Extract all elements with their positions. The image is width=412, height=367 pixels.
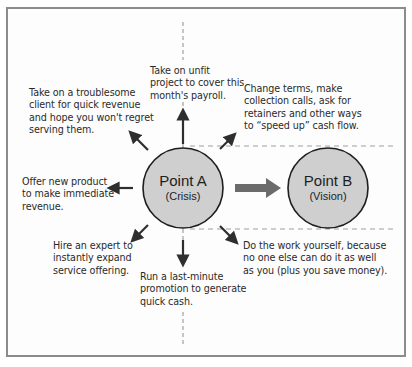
option-top-left: Take on a troublesome client for quick r… [29,87,154,137]
option-left-line: revenue. [22,201,114,213]
option-top-left-line: serving them. [29,124,154,136]
option-bottom-right-line: no one else can do it as well [243,252,387,264]
option-top-left-line: Take on a troublesome [29,87,154,99]
option-top-right: Change terms, make collection calls, ask… [244,83,362,133]
main-arrow-icon [235,178,281,198]
option-bottom-left: Hire an expert to instantly expand servi… [53,240,133,277]
point-a-subtitle: (Crisis) [143,189,223,203]
option-top: Take on unfit project to cover this mont… [150,65,244,102]
option-left-line: to make immediate [22,188,114,200]
option-top-line: Take on unfit [150,65,244,77]
option-top-line: project to cover this [150,77,244,89]
option-bottom-left-line: Hire an expert to [53,240,133,252]
point-b-label: Point B (Vision) [288,172,368,203]
option-bottom-line: promotion to generate [140,283,246,295]
option-top-right-line: Change terms, make [244,83,362,95]
option-bottom-line: quick cash. [140,296,246,308]
option-left: Offer new product to make immediate reve… [22,176,114,213]
arrow-down-right-icon [220,226,234,240]
arrow-down-left-icon [135,225,148,238]
option-top-left-line: and hope you won't regret [29,112,154,124]
arrow-up-left-icon [133,135,148,150]
option-bottom-left-line: service offering. [53,265,133,277]
option-top-left-line: client for quick revenue [29,99,154,111]
option-bottom-right-line: Do the work yourself, because [243,240,387,252]
option-top-right-line: collection calls, ask for [244,95,362,107]
option-bottom-right-line: as you (plus you save money). [243,265,387,277]
option-top-right-line: retainers and other ways [244,108,362,120]
point-b-subtitle: (Vision) [288,189,368,203]
option-bottom-right: Do the work yourself, because no one els… [243,240,387,277]
option-bottom-line: Run a last-minute [140,271,246,283]
option-left-line: Offer new product [22,176,114,188]
point-a-label: Point A (Crisis) [143,172,223,203]
option-bottom: Run a last-minute promotion to generate … [140,271,246,308]
point-b-title: Point B [288,172,368,189]
point-a-title: Point A [143,172,223,189]
arrow-up-right-icon [220,137,232,149]
option-top-right-line: to “speed up” cash flow. [244,120,362,132]
option-bottom-left-line: instantly expand [53,252,133,264]
option-top-line: month's payroll. [150,90,244,102]
